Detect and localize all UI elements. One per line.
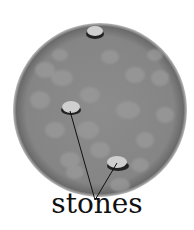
stones-label: stones [0,190,194,218]
sample-circle [13,23,187,197]
stones-diagram: stones [0,0,194,230]
stone-top [86,26,104,39]
